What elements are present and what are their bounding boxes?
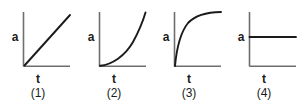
y-axis-label-1: a bbox=[8, 31, 22, 43]
curve-convex-2 bbox=[100, 13, 146, 66]
curve-saturating-3 bbox=[175, 12, 221, 66]
x-axis-label-1: t bbox=[0, 72, 76, 86]
graph-panel-1: a t (1) bbox=[0, 0, 76, 103]
x-axis-label-4: t bbox=[226, 72, 302, 86]
x-axis-label-2: t bbox=[76, 72, 152, 86]
y-axis-label-2: a bbox=[84, 31, 98, 43]
panel-caption-3: (3) bbox=[151, 86, 227, 100]
panel-caption-4: (4) bbox=[226, 86, 302, 100]
curve-linear-1 bbox=[25, 15, 71, 66]
panel-caption-2: (2) bbox=[76, 86, 152, 100]
y-axis-label-4: a bbox=[234, 31, 248, 43]
graph-panel-2: a t (2) bbox=[76, 0, 152, 103]
graph-panel-4: a t (4) bbox=[226, 0, 302, 103]
four-graph-figure: a t (1) a t (2) a t (3) a t (4) bbox=[0, 0, 302, 103]
panel-caption-1: (1) bbox=[0, 86, 76, 100]
y-axis-label-3: a bbox=[159, 31, 173, 43]
x-axis-label-3: t bbox=[151, 72, 227, 86]
graph-panel-3: a t (3) bbox=[151, 0, 227, 103]
